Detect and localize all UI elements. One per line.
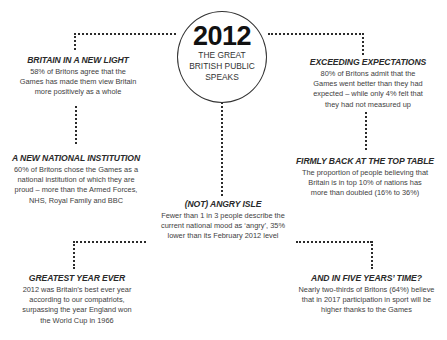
fact-greatest-year: GREATEST YEAR EVER 2012 was Britain’s be… bbox=[7, 273, 147, 326]
fact-line: 2012 was Britain’s best ever year bbox=[7, 285, 147, 295]
fact-line: Fewer than 1 in 3 people describe the bbox=[148, 211, 298, 221]
fact-line: surpassing the year England won bbox=[7, 305, 147, 315]
center-circle: 2012 THE GREAT BRITISH PUBLIC SPEAKS bbox=[177, 11, 267, 103]
fact-title: BRITAIN IN A NEW LIGHT bbox=[8, 55, 148, 65]
fact-line: Games went better than they had bbox=[293, 79, 443, 89]
fact-line: they had not measured up bbox=[293, 100, 443, 110]
connector-top-left-vertical bbox=[74, 33, 76, 50]
connector-left-middle-vertical bbox=[75, 106, 77, 144]
fact-line: Nearly two-thirds of Britons (64%) belie… bbox=[286, 285, 447, 295]
year-heading: 2012 bbox=[178, 23, 266, 50]
connector-center-vertical bbox=[221, 102, 223, 196]
fact-not-angry-isle: (NOT) ANGRY ISLE Fewer than 1 in 3 peopl… bbox=[148, 199, 298, 242]
connector-bottom-right-vertical bbox=[371, 241, 373, 269]
subtitle-line-2: BRITISH PUBLIC bbox=[178, 61, 266, 72]
fact-line: The proportion of people believing that bbox=[283, 168, 447, 178]
fact-title: (NOT) ANGRY ISLE bbox=[148, 199, 298, 209]
fact-britain-new-light: BRITAIN IN A NEW LIGHT 58% of Britons ag… bbox=[8, 55, 148, 98]
fact-exceeding-expectations: EXCEEDING EXPECTATIONS 80% of Britons ad… bbox=[293, 57, 443, 110]
connector-bottom-left-vertical bbox=[73, 241, 75, 269]
fact-title: GREATEST YEAR EVER bbox=[7, 273, 147, 283]
fact-line: 60% of Britons chose the Games as a bbox=[0, 165, 152, 175]
fact-national-institution: A NEW NATIONAL INSTITUTION 60% of Briton… bbox=[0, 153, 152, 206]
fact-line: NHS, Royal Family and BBC bbox=[0, 196, 152, 206]
fact-line: that in 2017 participation in sport will… bbox=[286, 295, 447, 305]
fact-title: EXCEEDING EXPECTATIONS bbox=[293, 57, 443, 67]
fact-line: national institution of which they are bbox=[0, 175, 152, 185]
fact-title: FIRMLY BACK AT THE TOP TABLE bbox=[283, 156, 447, 166]
connector-right-middle-vertical bbox=[365, 112, 367, 150]
fact-line: higher thanks to the Games bbox=[286, 305, 447, 315]
fact-line: 80% of Britons admit that the bbox=[293, 69, 443, 79]
connector-bottom-right-horizontal bbox=[296, 241, 372, 243]
subtitle-line-1: THE GREAT bbox=[178, 50, 266, 61]
fact-title: AND IN FIVE YEARS’ TIME? bbox=[286, 273, 447, 283]
fact-line: more than doubled (16% to 36%) bbox=[283, 188, 447, 198]
fact-line: according to our compatriots, bbox=[7, 295, 147, 305]
fact-five-years-time: AND IN FIVE YEARS’ TIME? Nearly two-thir… bbox=[286, 273, 447, 316]
fact-line: lower than its February 2012 level bbox=[148, 231, 298, 241]
fact-line: current national mood as ‘angry’, 35% bbox=[148, 221, 298, 231]
fact-line: Britain is in top 10% of nations has bbox=[283, 178, 447, 188]
fact-line: 58% of Britons agree that the bbox=[8, 67, 148, 77]
fact-line: expected – while only 4% felt that bbox=[293, 89, 443, 99]
subtitle-line-3: SPEAKS bbox=[178, 72, 266, 83]
connector-top-right-horizontal bbox=[268, 33, 364, 35]
connector-top-right-vertical bbox=[362, 33, 364, 55]
fact-line: proud – more than the Armed Forces, bbox=[0, 185, 152, 195]
fact-line: more positively as a whole bbox=[8, 87, 148, 97]
connector-bottom-left-horizontal bbox=[73, 241, 146, 243]
fact-line: the World Cup in 1966 bbox=[7, 316, 147, 326]
fact-top-table: FIRMLY BACK AT THE TOP TABLE The proport… bbox=[283, 156, 447, 199]
connector-top-left-horizontal bbox=[74, 33, 176, 35]
fact-title: A NEW NATIONAL INSTITUTION bbox=[0, 153, 152, 163]
fact-line: Games has made them view Britain bbox=[8, 77, 148, 87]
